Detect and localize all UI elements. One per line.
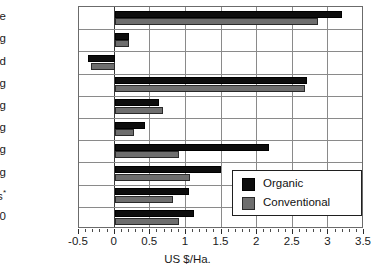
x-tick-minor (320, 229, 321, 232)
x-tick (78, 229, 79, 234)
bar-conventional (115, 196, 173, 203)
bar-organic (115, 122, 145, 129)
bar-conventional (115, 174, 191, 181)
legend-label-conventional: Conventional (263, 197, 330, 209)
x-tick-minor (213, 229, 214, 232)
x-tick-minor (342, 229, 343, 232)
x-tick-minor (128, 229, 129, 232)
x-tick (327, 229, 328, 234)
x-tick-minor (228, 229, 229, 232)
bar-organic (88, 55, 114, 62)
x-axis-title: US $/Ha. (0, 253, 375, 265)
y-axis-label-printing: Printing (0, 167, 6, 179)
bar-group (79, 74, 362, 96)
x-tick (363, 229, 364, 234)
x-tick-minor (349, 229, 350, 232)
y-axis-label-ginning: Ginning (0, 33, 6, 45)
x-tick-minor (335, 229, 336, 232)
bar-conventional (115, 18, 318, 25)
bar-group (79, 7, 362, 29)
bar-organic (115, 33, 129, 40)
bar-organic (115, 144, 270, 151)
x-tick-minor (99, 229, 100, 232)
x-tick-minor (156, 229, 157, 232)
x-tick (114, 229, 115, 234)
y-axis-label-weaving: Weaving (0, 100, 6, 112)
x-tick-minor (192, 229, 193, 232)
x-tick-minor (285, 229, 286, 232)
x-tick-minor (85, 229, 86, 232)
x-tick-minor (263, 229, 264, 232)
bar-conventional (91, 63, 115, 70)
legend-swatch-conventional (242, 197, 255, 210)
bar-conventional (115, 107, 163, 114)
x-tick-minor (107, 229, 108, 232)
chart-legend: Organic Conventional (232, 170, 362, 216)
x-tick (221, 229, 222, 234)
x-tick-minor (206, 229, 207, 232)
bar-organic (115, 210, 195, 217)
x-tick-minor (242, 229, 243, 232)
x-tick-minor (356, 229, 357, 232)
x-tick-minor (270, 229, 271, 232)
x-tick-minor (199, 229, 200, 232)
x-tick-minor (92, 229, 93, 232)
bar-conventional (115, 40, 129, 47)
bar-organic (115, 188, 190, 195)
bar-conventional (115, 129, 134, 136)
x-tick (292, 229, 293, 234)
legend-item-organic: Organic (242, 176, 303, 192)
bar-organic (115, 99, 159, 106)
y-axis-label-spinning: Spinning (0, 78, 6, 90)
bar-group (79, 29, 362, 51)
x-tick-minor (278, 229, 279, 232)
legend-label-organic: Organic (263, 178, 303, 190)
bar-organic (115, 77, 307, 84)
x-tick-minor (142, 229, 143, 232)
x-tick (256, 229, 257, 234)
y-axis-label-sale-of-seed: Sale of seed (0, 56, 6, 68)
bar-group (79, 96, 362, 118)
x-tick-minor (235, 229, 236, 232)
bar-group (79, 140, 362, 162)
x-tick-minor (178, 229, 179, 232)
y-axis-label-total-10: Total/10 (0, 211, 6, 223)
bar-organic (115, 166, 221, 173)
legend-item-conventional: Conventional (242, 195, 330, 211)
y-axis-label-cotton-fibre: Cotton fibre (0, 11, 6, 23)
bar-conventional (115, 218, 179, 225)
x-tick-minor (249, 229, 250, 232)
x-tick-minor (164, 229, 165, 232)
x-tick-minor (135, 229, 136, 232)
bar-conventional (115, 151, 179, 158)
legend-swatch-organic (242, 178, 255, 191)
x-tick-minor (121, 229, 122, 232)
x-tick (185, 229, 186, 234)
bar-chart-figure: Cotton fibreGinningSale of seedSpinningW… (0, 0, 375, 277)
y-axis-label-dyeing: Dyeing (0, 144, 6, 156)
bar-group (79, 51, 362, 73)
bar-group (79, 118, 362, 140)
y-axis-label-washing: Washing (0, 122, 6, 134)
bar-organic (115, 11, 342, 18)
x-tick-minor (299, 229, 300, 232)
x-tick-minor (171, 229, 172, 232)
x-tick-minor (313, 229, 314, 232)
x-tick-label: 3.5 (333, 236, 375, 248)
bar-conventional (115, 85, 305, 92)
x-tick-minor (306, 229, 307, 232)
y-axis-label-losses: Losses* (0, 189, 6, 202)
x-tick (149, 229, 150, 234)
